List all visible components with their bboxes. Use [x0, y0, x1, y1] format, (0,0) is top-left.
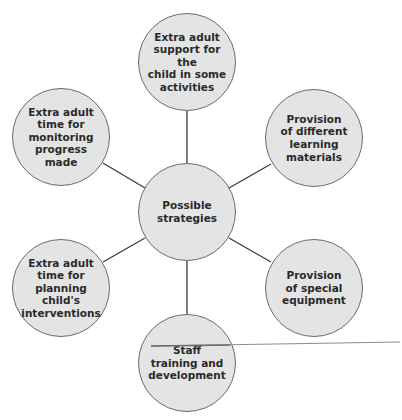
strategies-diagram: Extra adult support for the child in som… [0, 0, 402, 420]
connector-top-right [229, 164, 271, 188]
node-center: Possible strategies [138, 163, 236, 261]
node-bottom: Staff training and development [138, 314, 236, 412]
node-center-label: Possible strategies [153, 199, 221, 224]
node-top-label: Extra adult support for the child in som… [139, 31, 235, 94]
node-bottom-left: Extra adult time for planning child's in… [12, 239, 110, 337]
node-bottom-right-label: Provision of special equipment [278, 269, 350, 307]
connector-top-left [103, 163, 145, 188]
connector-bottom-right [229, 238, 271, 262]
node-top-left-label: Extra adult time for monitoring progress… [13, 106, 109, 169]
node-top-right: Provision of different learning material… [265, 89, 363, 187]
node-top: Extra adult support for the child in som… [138, 13, 236, 111]
node-bottom-label: Staff training and development [144, 344, 230, 382]
node-bottom-right: Provision of special equipment [265, 239, 363, 337]
node-top-right-label: Provision of different learning material… [277, 113, 352, 163]
connector-bottom-left [103, 238, 145, 262]
node-bottom-left-label: Extra adult time for planning child's in… [13, 257, 109, 320]
node-top-left: Extra adult time for monitoring progress… [12, 88, 110, 186]
